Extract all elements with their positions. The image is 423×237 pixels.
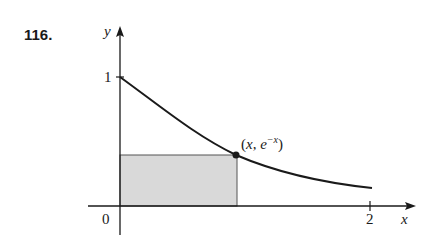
x-axis-label: x [400,211,408,227]
y-axis-label: y [102,23,111,39]
origin-label: 0 [102,211,110,227]
shaded-rectangle [120,155,237,206]
y-tick-label-1: 1 [104,69,112,85]
point-label: (x, e−x) [241,134,283,153]
curve-point [233,152,240,159]
x-tick-label-2: 2 [366,211,374,227]
exponential-decay-graph: y x 0 1 2 (x, e−x) [0,0,423,237]
